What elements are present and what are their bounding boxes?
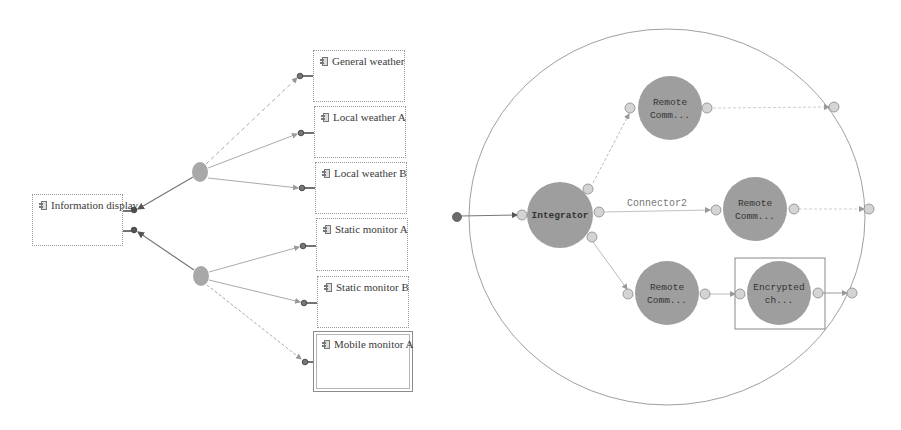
node-integrator-label: Integrator <box>531 210 588 221</box>
integrator-port-top[interactable] <box>583 184 593 194</box>
boundary-port-mid[interactable] <box>864 204 874 214</box>
remote-bottom-port-in[interactable] <box>623 289 633 299</box>
integrator-port-bottom[interactable] <box>587 232 597 242</box>
component-label: Information display <box>51 199 138 211</box>
integrator-port-in[interactable] <box>517 210 527 220</box>
node-encrypted-channel[interactable]: Encrypted ch... <box>735 261 823 325</box>
component-general-weather[interactable]: General weather <box>313 50 405 102</box>
component-local-weather-a[interactable]: Local weather A <box>314 106 406 158</box>
link-hub-monitor-to-source[interactable] <box>138 232 194 270</box>
remote-mid-label-line1: Remote <box>738 198 773 209</box>
link-static-monitor-a[interactable] <box>209 247 299 272</box>
boundary-port-bottom[interactable] <box>847 288 857 298</box>
encrypted-port-in[interactable] <box>735 289 745 299</box>
integrator-port-mid[interactable] <box>594 207 604 217</box>
link-hub-weather-to-source[interactable] <box>138 177 193 209</box>
remote-mid-port-in[interactable] <box>711 205 721 215</box>
remote-bottom-label-line2: Comm... <box>647 295 687 306</box>
node-remote-comm-bottom[interactable]: Remote Comm... <box>623 261 710 325</box>
component-label: Static monitor B <box>336 281 409 293</box>
remote-bottom-label-line1: Remote <box>650 282 685 293</box>
component-label: Local weather A <box>333 111 406 123</box>
link-integrator-to-remote-top[interactable] <box>593 114 629 183</box>
remote-top-label-line1: Remote <box>653 97 688 108</box>
encrypted-label-line2: ch... <box>765 295 794 306</box>
component-static-monitor-b[interactable]: Static monitor B <box>317 276 409 328</box>
component-local-weather-b[interactable]: Local weather B <box>315 162 407 214</box>
component-icon <box>322 340 330 349</box>
diagram-canvas: Connector2 Integrator Remote Comm... Rem… <box>0 0 901 430</box>
remote-mid-port-out[interactable] <box>789 204 799 214</box>
source-port-bottom[interactable] <box>131 227 137 233</box>
link-connector2[interactable] <box>603 210 710 212</box>
link-remote-top-out[interactable] <box>713 107 829 108</box>
port-mobile-monitor-a[interactable] <box>302 359 308 365</box>
component-icon <box>321 113 329 122</box>
link-integrator-to-remote-bottom[interactable] <box>593 242 627 289</box>
boundary-port-top[interactable] <box>829 102 839 112</box>
port-local-weather-a[interactable] <box>298 130 304 136</box>
component-icon <box>324 283 332 292</box>
node-remote-comm-top[interactable]: Remote Comm... <box>625 76 712 140</box>
port-general-weather[interactable] <box>297 73 303 79</box>
link-local-weather-a[interactable] <box>208 134 297 168</box>
hub-monitor[interactable] <box>193 266 209 286</box>
port-local-weather-b[interactable] <box>299 185 305 191</box>
component-icon <box>323 225 331 234</box>
link-mobile-monitor-a[interactable] <box>207 285 301 359</box>
encrypted-port-out[interactable] <box>813 288 823 298</box>
remote-top-port-out[interactable] <box>702 103 712 113</box>
node-remote-comm-mid[interactable]: Remote Comm... <box>711 177 799 241</box>
port-static-monitor-b[interactable] <box>301 300 307 306</box>
component-label: General weather <box>332 55 404 67</box>
component-label: Static monitor A <box>335 223 408 235</box>
component-label: Local weather B <box>334 167 407 179</box>
encrypted-label-line1: Encrypted <box>753 282 804 293</box>
component-icon <box>320 57 328 66</box>
port-static-monitor-a[interactable] <box>300 243 306 249</box>
remote-bottom-port-out[interactable] <box>700 289 710 299</box>
component-label: Mobile monitor A <box>334 338 413 350</box>
node-integrator[interactable]: Integrator <box>517 182 604 248</box>
remote-top-port-in[interactable] <box>625 103 635 113</box>
connector-label[interactable]: Connector2 <box>627 198 687 209</box>
link-static-monitor-b[interactable] <box>209 280 300 302</box>
remote-mid-label-line2: Comm... <box>735 211 775 222</box>
link-local-weather-b[interactable] <box>208 178 298 188</box>
component-static-monitor-a[interactable]: Static monitor A <box>316 218 408 271</box>
remote-top-label-line2: Comm... <box>650 110 690 121</box>
component-mobile-monitor-a[interactable]: Mobile monitor A <box>313 331 413 392</box>
hub-weather[interactable] <box>192 162 208 182</box>
entry-port[interactable] <box>453 213 462 222</box>
component-icon <box>322 169 330 178</box>
component-icon <box>39 201 47 210</box>
component-information-display[interactable]: Information display <box>32 194 123 246</box>
